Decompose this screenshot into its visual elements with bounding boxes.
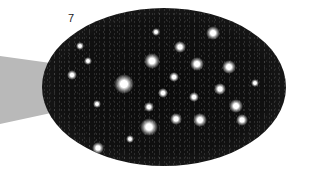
star bbox=[190, 57, 204, 71]
star bbox=[92, 142, 104, 154]
star bbox=[84, 57, 92, 65]
star bbox=[236, 114, 248, 126]
star bbox=[174, 41, 186, 53]
star bbox=[152, 28, 160, 36]
star bbox=[170, 113, 182, 125]
star bbox=[222, 60, 236, 74]
star bbox=[251, 79, 259, 87]
star-noise-texture bbox=[42, 8, 286, 166]
star bbox=[206, 26, 220, 40]
star bbox=[214, 83, 226, 95]
star bbox=[229, 99, 243, 113]
star bbox=[67, 70, 77, 80]
figure-label: 7 bbox=[68, 12, 74, 24]
star bbox=[76, 42, 84, 50]
star bbox=[144, 102, 154, 112]
star bbox=[169, 72, 179, 82]
star bbox=[193, 113, 207, 127]
star bbox=[140, 118, 158, 136]
star bbox=[158, 88, 168, 98]
star bbox=[144, 53, 160, 69]
star bbox=[126, 135, 134, 143]
star-field-ellipse bbox=[42, 8, 286, 166]
star bbox=[93, 100, 101, 108]
star bbox=[189, 92, 199, 102]
star bbox=[114, 74, 134, 94]
